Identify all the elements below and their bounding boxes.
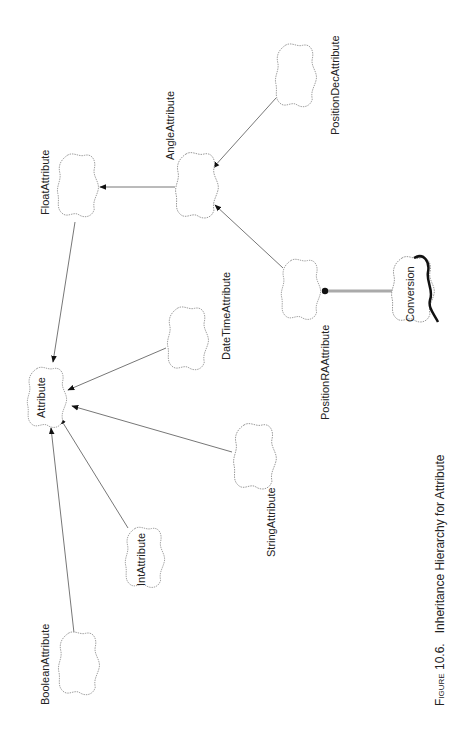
label-position-dec: PositionDecAttribute — [329, 35, 341, 135]
cloud-string[interactable] — [234, 424, 277, 489]
edge-positiondec-angle — [213, 98, 276, 168]
association-dot — [322, 288, 328, 294]
edge-string-attribute — [72, 406, 232, 452]
cloud-float[interactable] — [57, 154, 98, 217]
cloud-position-dec[interactable] — [275, 44, 316, 107]
label-boolean: BooleanAttribute — [39, 624, 51, 705]
label-position-ra: PositionRAAttribute — [319, 325, 331, 420]
caption-prefix: Figure 10.6. — [433, 643, 447, 706]
label-int: IntAttribute — [135, 533, 147, 586]
edges — [51, 98, 394, 633]
edge-int-attribute — [60, 418, 128, 528]
label-string: StringAttribute — [265, 487, 277, 557]
figure-caption: Figure 10.6.Inheritance Hierarchy for At… — [433, 454, 447, 706]
label-float: FloatAttribute — [39, 150, 51, 215]
diagram-canvas: FloatAttribute AngleAttribute PositionDe… — [0, 0, 464, 754]
label-attribute: Attribute — [35, 377, 47, 418]
edge-positionra-angle — [215, 205, 283, 268]
edge-datetime-attribute — [68, 348, 166, 390]
label-datetime: DateTimeAttribute — [220, 272, 232, 360]
label-conversion: Conversion — [404, 266, 416, 322]
cloud-position-ra[interactable] — [281, 259, 320, 319]
cloud-angle[interactable] — [176, 153, 219, 218]
edge-float-attribute — [53, 222, 75, 362]
caption-text: Inheritance Hierarchy for Attribute — [433, 454, 447, 633]
edge-boolean-attribute — [51, 428, 74, 633]
label-angle: AngleAttribute — [164, 91, 176, 160]
cloud-datetime[interactable] — [167, 307, 208, 370]
cloud-boolean[interactable] — [58, 632, 99, 695]
